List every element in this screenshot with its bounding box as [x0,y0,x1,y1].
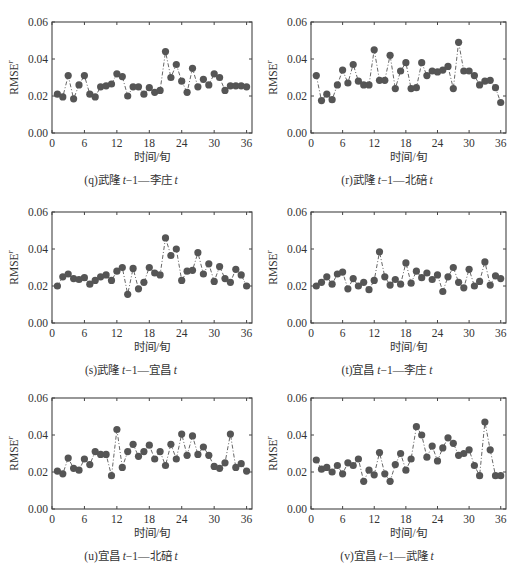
x-tick-label: 30 [208,327,220,339]
data-point [360,279,367,286]
caption-caption-prefix: (t)宜昌 [342,364,378,376]
y-tick-label: 0.02 [28,90,48,102]
x-tick-label: 6 [340,137,346,149]
data-point [189,65,196,72]
x-tick-label: 36 [495,327,507,339]
y-tick-label: 0.00 [28,317,48,329]
data-point [450,440,457,447]
data-point [397,281,404,288]
chart-panel-r: 0.000.020.040.06061218243036RMSEr时间/旬(r)… [256,0,518,190]
data-point [365,286,372,293]
data-point [135,453,142,460]
x-tick-label: 6 [82,513,88,525]
data-point [323,91,330,98]
y-tick-label: 0.06 [28,16,48,28]
data-point [162,462,169,469]
caption-caption-italic-2: t [174,174,177,186]
x-tick-label: 12 [111,327,123,339]
data-point [108,80,115,87]
x-tick-label: 0 [49,137,55,149]
x-tick-label: 18 [400,513,412,525]
data-point [323,273,330,280]
data-point [487,282,494,289]
x-tick-label: 24 [176,137,188,149]
x-tick-label: 0 [49,327,55,339]
data-point [151,455,158,462]
data-point [216,74,223,81]
y-axis-title-superscript: r [265,435,274,439]
y-axis-title: RMSEr [265,435,279,470]
data-point [124,448,131,455]
data-point [450,264,457,271]
data-point [444,434,451,441]
data-point [65,455,72,462]
data-point [70,95,77,102]
y-tick-label: 0.04 [287,243,307,255]
data-point [371,471,378,478]
caption-caption-italic-2: t [430,174,433,186]
y-tick-label: 0.06 [28,206,48,218]
y-tick-label: 0.00 [287,317,307,329]
y-axis-title-text: RMSE [8,253,20,284]
x-tick-label: 24 [176,513,188,525]
data-point [418,431,425,438]
data-point [167,252,174,259]
data-point [157,87,164,94]
data-point [402,259,409,266]
data-point [178,78,185,85]
x-tick-label: 0 [49,513,55,525]
caption-caption-mid: −1—李庄 [381,364,430,376]
data-point [313,72,320,79]
chart-panel-s: 0.000.020.040.06061218243036RMSEr时间/旬(s)… [0,190,262,380]
x-tick-label: 6 [340,513,346,525]
data-point [227,431,234,438]
data-point [205,260,212,267]
y-axis-title: RMSEr [6,435,20,470]
y-tick-label: 0.06 [287,392,307,404]
data-point [173,245,180,252]
data-point [189,267,196,274]
data-point [460,284,467,291]
data-point [481,418,488,425]
x-tick-label: 30 [208,513,220,525]
data-point [135,285,142,292]
data-point [216,465,223,472]
y-tick-label: 0.06 [287,16,307,28]
data-point [86,461,93,468]
x-tick-label: 36 [241,327,253,339]
y-axis-title-superscript: r [265,249,274,253]
x-tick-label: 18 [144,137,156,149]
data-point [397,67,404,74]
data-point [423,269,430,276]
data-point [392,461,399,468]
y-tick-label: 0.00 [28,503,48,515]
data-point [167,441,174,448]
data-point [471,72,478,79]
data-point [146,442,153,449]
data-point [450,85,457,92]
data-point [146,264,153,271]
data-point [140,279,147,286]
data-point [376,248,383,255]
data-point [397,450,404,457]
data-point [119,464,126,471]
chart-svg-q: 0.000.020.040.06061218243036RMSEr时间/旬 [0,0,262,190]
data-point [329,281,336,288]
chart-svg-t: 0.000.020.040.06061218243036RMSEr时间/旬 [256,190,518,380]
data-point [81,72,88,79]
plot-frame [311,398,506,509]
caption-caption-prefix: (v)宜昌 [340,550,378,562]
data-point [200,76,207,83]
data-point [205,452,212,459]
x-tick-label: 6 [82,137,88,149]
data-point [413,423,420,430]
data-point [381,273,388,280]
data-point [487,446,494,453]
data-point [81,455,88,462]
y-axis-title: RMSEr [265,249,279,284]
x-axis-title: 时间/旬 [390,527,426,539]
x-tick-label: 0 [308,137,314,149]
data-point [350,462,357,469]
chart-caption: (s)武隆 t−1—宜昌 t [0,361,262,377]
x-tick-label: 18 [144,327,156,339]
